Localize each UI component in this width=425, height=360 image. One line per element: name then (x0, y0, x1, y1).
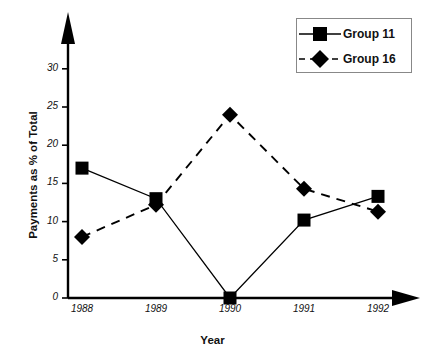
chart-container: 051015202530 19881989199019911992 Paymen… (0, 0, 425, 360)
data-point-marker (370, 204, 386, 220)
data-point-marker (222, 107, 238, 123)
y-axis-arrow-icon (61, 12, 75, 44)
series-line-group-11 (82, 168, 378, 298)
data-point-marker (76, 162, 89, 175)
diamond-marker-icon (297, 47, 343, 71)
series-lines (82, 115, 378, 298)
x-tick-label: 1989 (130, 303, 182, 314)
y-tick-label: 30 (28, 62, 58, 73)
legend-item-group-11[interactable]: Group 11 (297, 21, 413, 47)
data-point-marker (74, 229, 90, 245)
x-tick-label: 1991 (278, 303, 330, 314)
series-markers (74, 107, 386, 305)
legend-label-group-16: Group 16 (343, 53, 396, 65)
data-point-marker (372, 190, 385, 203)
square-marker-icon (297, 22, 343, 46)
x-axis-title: Year (0, 334, 425, 346)
y-axis-title: Payments as % of Total (27, 80, 39, 270)
x-tick-label: 1992 (352, 303, 404, 314)
data-point-marker (298, 214, 311, 227)
legend-label-group-11: Group 11 (343, 28, 395, 40)
x-tick-label: 1988 (56, 303, 108, 314)
y-tick-label: 0 (28, 291, 58, 302)
chart-legend: Group 11 Group 16 (296, 18, 412, 73)
series-line-group-16 (82, 115, 378, 237)
legend-item-group-16[interactable]: Group 16 (297, 46, 413, 72)
x-tick-label: 1990 (204, 303, 256, 314)
